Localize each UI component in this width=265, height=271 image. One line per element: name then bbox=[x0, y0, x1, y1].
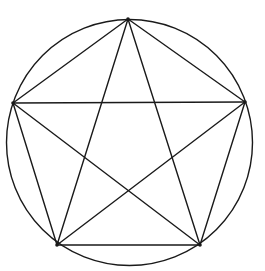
vertex-left bbox=[11, 101, 15, 105]
pentagram-edge-top-bottom-right bbox=[128, 19, 200, 245]
pentagon-edge-left-top bbox=[13, 19, 128, 103]
pentagon-edge-bottom-left-left bbox=[13, 103, 57, 245]
vertex-top bbox=[126, 17, 130, 21]
pentagram-in-circle-diagram bbox=[0, 0, 265, 271]
vertex-bottom-left bbox=[55, 243, 59, 247]
pentagram-edge-left-right bbox=[13, 102, 245, 103]
vertex-right bbox=[243, 100, 247, 104]
pentagon-edge-top-right bbox=[128, 19, 245, 102]
pentagram-edge-right-bottom-left bbox=[57, 102, 245, 245]
diagram-canvas bbox=[0, 0, 265, 271]
pentagram-edge-left-bottom-right bbox=[13, 103, 200, 245]
vertex-bottom-right bbox=[198, 243, 202, 247]
pentagram-edge-top-bottom-left bbox=[57, 19, 128, 245]
circumscribed-circle bbox=[7, 20, 253, 266]
pentagon-edges bbox=[13, 19, 245, 245]
